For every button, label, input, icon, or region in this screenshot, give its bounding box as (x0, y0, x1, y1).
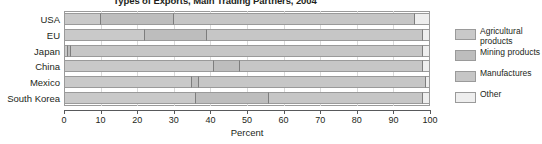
stacked-bar[interactable] (64, 76, 430, 88)
x-axis-tick-label: 0 (49, 115, 79, 125)
x-axis-tick-label: 40 (195, 115, 225, 125)
legend-label: Mining products (480, 48, 542, 58)
legend-label: Manufactures (480, 69, 542, 79)
bar-segment[interactable] (199, 76, 426, 88)
x-axis-tick (101, 110, 102, 114)
legend-swatch (455, 50, 476, 61)
x-axis-tick-label: 60 (269, 115, 299, 125)
bar-segment[interactable] (423, 60, 430, 72)
stacked-bar[interactable] (64, 13, 430, 25)
bar-segment[interactable] (174, 13, 416, 25)
x-axis-tick (64, 110, 65, 114)
y-axis-label: USA (0, 14, 60, 25)
x-axis-tick (210, 110, 211, 114)
y-axis-label: EU (0, 30, 60, 41)
x-axis-tick-label: 90 (378, 115, 408, 125)
legend-label: Other (480, 90, 542, 100)
y-axis-label: China (0, 61, 60, 72)
bar-segment[interactable] (207, 29, 423, 41)
bar-segment[interactable] (423, 92, 430, 104)
bar-row (64, 13, 430, 25)
chart-legend: Agricultural productsMining productsManu… (455, 28, 542, 114)
bar-segment[interactable] (64, 76, 192, 88)
x-axis-tick-label: 10 (86, 115, 116, 125)
y-axis-category-labels: USAEUJapanChinaMexicoSouth Korea (0, 11, 60, 106)
x-axis: 0102030405060708090100 Percent (64, 110, 430, 144)
bar-row (64, 60, 430, 72)
bar-segment[interactable] (415, 13, 430, 25)
x-axis-tick-label: 100 (415, 115, 445, 125)
bar-segment[interactable] (64, 60, 214, 72)
bar-segment[interactable] (101, 13, 174, 25)
bar-segment[interactable] (269, 92, 423, 104)
x-axis-tick-label: 20 (122, 115, 152, 125)
x-axis-tick (137, 110, 138, 114)
x-axis-tick (430, 110, 431, 114)
bar-row (64, 92, 430, 104)
x-axis-tick-label: 50 (232, 115, 262, 125)
legend-label: Agricultural products (480, 27, 542, 46)
bar-segment[interactable] (426, 76, 430, 88)
bar-segment[interactable] (423, 45, 430, 57)
legend-item[interactable]: Agricultural products (455, 28, 542, 46)
y-axis-label: South Korea (0, 93, 60, 104)
bar-segment[interactable] (240, 60, 423, 72)
stacked-bar[interactable] (64, 92, 430, 104)
legend-swatch (455, 29, 476, 40)
bar-segment[interactable] (64, 92, 196, 104)
x-axis-tick (320, 110, 321, 114)
chart-title: Types of Exports, Main Trading Partners,… (0, 0, 430, 6)
bar-segment[interactable] (64, 29, 145, 41)
bar-segment[interactable] (192, 76, 199, 88)
bar-segment[interactable] (196, 92, 269, 104)
bar-row (64, 45, 430, 57)
x-axis-title: Percent (64, 127, 430, 138)
bar-segment[interactable] (64, 13, 101, 25)
x-axis-tick-label: 30 (159, 115, 189, 125)
x-axis-tick (393, 110, 394, 114)
bar-segment[interactable] (145, 29, 207, 41)
stacked-bar[interactable] (64, 60, 430, 72)
bar-row (64, 29, 430, 41)
x-axis-tick-label: 80 (342, 115, 372, 125)
plot-area (64, 11, 430, 106)
bar-row (64, 76, 430, 88)
legend-item[interactable]: Manufactures (455, 70, 542, 88)
stacked-bar[interactable] (64, 29, 430, 41)
bar-segment[interactable] (214, 60, 240, 72)
stacked-bar[interactable] (64, 45, 430, 57)
x-axis-tick (284, 110, 285, 114)
x-axis-tick (174, 110, 175, 114)
y-axis-label: Japan (0, 46, 60, 57)
legend-swatch (455, 71, 476, 82)
legend-swatch (455, 92, 476, 103)
chart-container: Types of Exports, Main Trading Partners,… (0, 0, 542, 144)
legend-item[interactable]: Other (455, 91, 542, 109)
bar-segment[interactable] (71, 45, 422, 57)
x-axis-tick (357, 110, 358, 114)
bar-segment[interactable] (423, 29, 430, 41)
x-axis-tick (247, 110, 248, 114)
x-axis-tick-label: 70 (305, 115, 335, 125)
y-axis-label: Mexico (0, 77, 60, 88)
legend-item[interactable]: Mining products (455, 49, 542, 67)
